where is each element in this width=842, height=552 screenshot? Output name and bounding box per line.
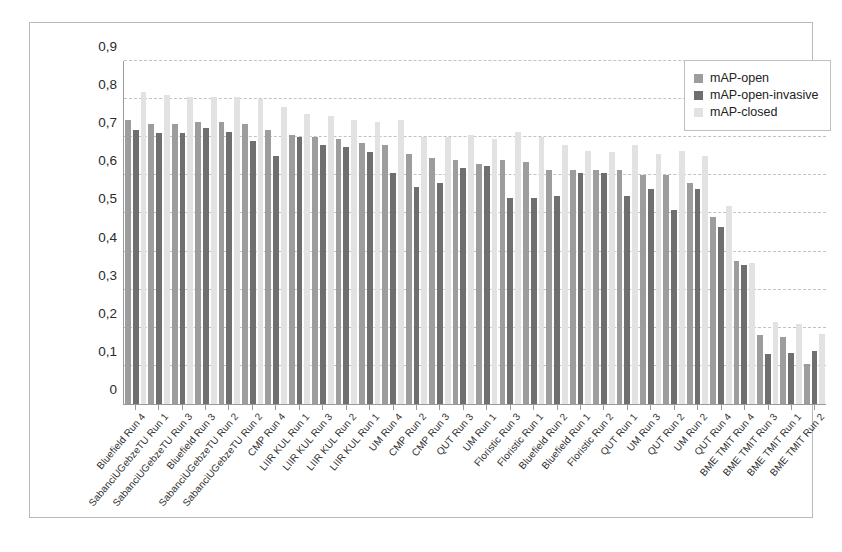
y-axis-tick-label: 0,5	[98, 191, 117, 206]
bar-map-closed	[796, 324, 802, 404]
chart-page: 00,10,20,30,40,50,60,70,80,9 Bluefield R…	[0, 0, 842, 552]
y-axis-tick-label: 0,2	[98, 305, 117, 320]
bar-map-closed	[539, 137, 545, 404]
bar-map-closed	[375, 122, 381, 404]
legend-label: mAP-closed	[710, 105, 777, 119]
y-axis-tick-label: 0	[109, 382, 117, 397]
bar-map-open	[195, 122, 201, 404]
bar-map-open-invasive	[226, 132, 232, 404]
chart-legend: mAP-openmAP-open-invasivemAP-closed	[684, 60, 831, 131]
x-axis-tick	[756, 405, 779, 410]
bar-map-open-invasive	[624, 196, 630, 404]
x-axis-tick	[287, 405, 310, 410]
legend-swatch-icon	[694, 91, 703, 100]
x-axis-tick	[639, 405, 662, 410]
bar-map-open-invasive	[414, 187, 420, 404]
bar-map-closed	[609, 152, 615, 404]
bar-map-closed	[164, 95, 170, 404]
bar-map-closed	[562, 145, 568, 404]
bar-map-open-invasive	[460, 168, 466, 404]
bar-map-open	[265, 130, 271, 404]
bar-map-open-invasive	[695, 189, 701, 404]
bar-group	[124, 61, 147, 404]
bar-map-open-invasive	[437, 183, 443, 404]
y-axis-tick-label: 0,6	[98, 153, 117, 168]
bar-map-closed	[492, 139, 498, 404]
x-axis-tick	[545, 405, 568, 410]
bar-map-open	[289, 135, 295, 404]
bar-map-open-invasive	[273, 156, 279, 404]
bar-map-closed	[468, 135, 474, 404]
x-axis-tick	[217, 405, 240, 410]
bar-group	[522, 61, 545, 404]
bar-map-closed	[679, 151, 685, 404]
bar-map-open-invasive	[671, 210, 677, 404]
bar-group	[662, 61, 685, 404]
x-axis-tick	[662, 405, 685, 410]
bar-map-open-invasive	[578, 173, 584, 404]
x-axis-tick	[311, 405, 334, 410]
x-axis-tick	[123, 405, 146, 410]
x-axis-tick	[357, 405, 380, 410]
bar-map-open	[570, 170, 576, 404]
bar-map-open-invasive	[554, 196, 560, 404]
bar-map-closed	[258, 99, 264, 404]
bar-map-closed	[281, 107, 287, 404]
bar-map-closed	[187, 97, 193, 404]
y-axis-tick-label: 0,1	[98, 343, 117, 358]
bar-map-closed	[328, 116, 334, 404]
bar-map-open-invasive	[601, 173, 607, 404]
x-axis-tick	[803, 405, 826, 410]
bar-map-closed	[304, 114, 310, 404]
bar-map-open	[780, 337, 786, 404]
bar-group	[171, 61, 194, 404]
bar-map-open	[148, 124, 154, 404]
x-axis-tick	[475, 405, 498, 410]
bar-map-open	[640, 175, 646, 404]
bar-group	[405, 61, 428, 404]
bar-map-closed	[773, 322, 779, 404]
bar-group	[616, 61, 639, 404]
bar-map-open	[242, 124, 248, 404]
legend-item: mAP-open	[694, 71, 818, 85]
x-axis-tick	[451, 405, 474, 410]
bar-map-open	[312, 137, 318, 404]
bar-map-open-invasive	[390, 173, 396, 404]
bar-group	[475, 61, 498, 404]
x-axis-tick	[381, 405, 404, 410]
bar-map-open-invasive	[718, 227, 724, 404]
bar-map-open	[359, 143, 365, 404]
bar-map-closed	[726, 206, 732, 404]
y-axis-tick-label: 0,8	[98, 77, 117, 92]
bar-group	[194, 61, 217, 404]
bar-map-open	[429, 158, 435, 404]
bar-map-open-invasive	[507, 198, 513, 404]
bar-map-closed	[421, 137, 427, 404]
bar-map-open	[453, 160, 459, 404]
bar-group	[569, 61, 592, 404]
bar-map-open	[336, 139, 342, 404]
x-axis-tick	[779, 405, 802, 410]
bar-map-open-invasive	[297, 137, 303, 404]
bar-group	[264, 61, 287, 404]
x-axis-tick	[428, 405, 451, 410]
bar-map-open-invasive	[156, 133, 162, 404]
bar-map-open-invasive	[765, 354, 771, 404]
y-axis-tick-label: 0,9	[98, 39, 117, 54]
y-axis-tick-label: 0,4	[98, 229, 117, 244]
x-axis-tick	[240, 405, 263, 410]
bar-map-open-invasive	[484, 166, 490, 404]
bar-group	[335, 61, 358, 404]
bar-map-open-invasive	[741, 265, 747, 404]
bar-group	[428, 61, 451, 404]
bar-group	[241, 61, 264, 404]
y-axis-tick-label: 0,7	[98, 115, 117, 130]
bar-map-open-invasive	[203, 128, 209, 404]
bar-map-closed	[398, 120, 404, 404]
bar-group	[311, 61, 334, 404]
bar-map-open-invasive	[648, 189, 654, 404]
bar-group	[147, 61, 170, 404]
bar-map-closed	[234, 97, 240, 404]
bar-map-open	[593, 170, 599, 404]
x-axis-tick	[146, 405, 169, 410]
